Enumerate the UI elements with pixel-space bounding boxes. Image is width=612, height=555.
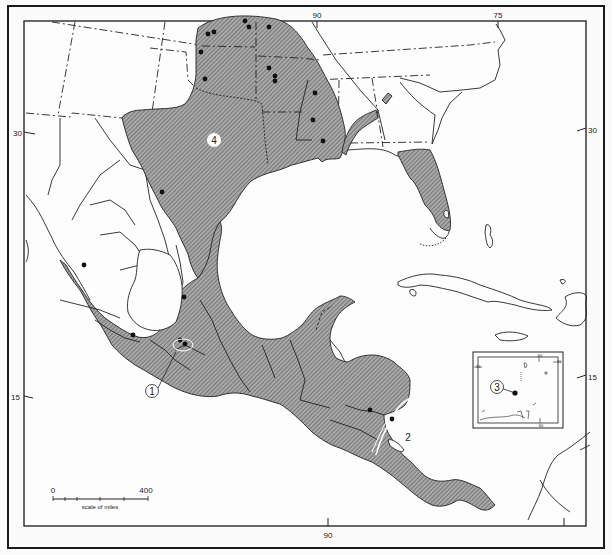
inset-tick-top: 60 [538, 353, 543, 358]
distribution-map: 4 1 2 60 60 15 15 3 [0, 0, 612, 555]
right-tick-label-15: 15 [588, 373, 597, 382]
scale-end-label: 400 [139, 486, 153, 495]
range-label-2-text: 2 [405, 432, 411, 443]
left-tick-label-30: 30 [13, 129, 22, 138]
range-label-4: 4 [207, 133, 221, 147]
top-tick-label-90: 90 [313, 11, 322, 20]
range-label-4-text: 4 [211, 135, 217, 146]
scale-caption: scale of miles [82, 504, 118, 510]
left-tick-label-15: 15 [11, 393, 20, 402]
inset-tick-left: 15 [476, 364, 481, 369]
inset-map: 60 60 15 15 3 [473, 352, 563, 428]
inset-tick-bottom: 60 [539, 423, 544, 428]
range-label-3-text: 3 [494, 382, 500, 393]
range-label-1-text: 1 [149, 386, 155, 397]
right-tick-label-30: 30 [588, 126, 597, 135]
inset-tick-right: 15 [557, 359, 562, 364]
scale-start-label: 0 [51, 486, 56, 495]
bottom-tick-label-90: 90 [324, 531, 333, 540]
range-label-2: 2 [401, 430, 415, 444]
top-tick-label-75: 75 [494, 11, 503, 20]
